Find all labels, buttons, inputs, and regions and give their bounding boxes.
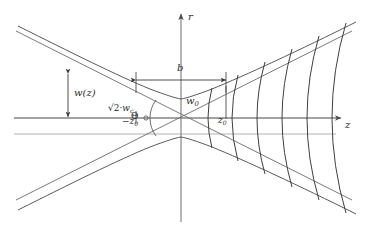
r-axis-label: r [188, 12, 193, 22]
waist-radius-label: w0 [186, 96, 199, 108]
beam-radius-label: w(z) [74, 88, 96, 98]
w0-subscript-text: 0 [195, 100, 199, 108]
gaussian-beam-figure: r z w(z) √2·wc −z0 Θ w0 z0 b [0, 0, 367, 234]
asymptote-lines [16, 31, 352, 200]
wc-symbol-text: w [122, 103, 130, 113]
beam-diagram-svg [0, 0, 367, 234]
sqrt-two-wc-label: √2·wc [108, 104, 133, 114]
beam-envelope-lower [18, 137, 356, 214]
w0-symbol-text: w [186, 95, 195, 106]
z0-subscript-text: 0 [223, 119, 227, 126]
confocal-parameter-label: b [177, 63, 183, 73]
minus-sign-text: − [122, 116, 130, 126]
z-axis-label: z [345, 120, 350, 130]
beam-envelope-upper [18, 22, 356, 99]
sqrt-two-radical-text: √2 [108, 103, 119, 113]
rayleigh-range-label: z0 [218, 116, 227, 126]
theta-angle-label: Θ [131, 112, 138, 121]
